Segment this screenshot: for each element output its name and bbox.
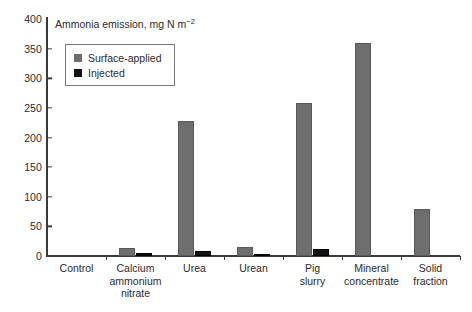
x-axis-category-label-line: Urea [165,262,224,275]
x-axis-category-label-line: Solid [401,262,460,275]
x-axis-category-label-line: Mineral [342,262,401,275]
x-axis-category-label: Mineralconcentrate [342,262,401,287]
x-axis-category-label-line: Pig [283,262,342,275]
x-axis-category-label: Calciumammoniumnitrate [106,262,165,300]
x-axis-category-label: Pigslurry [283,262,342,287]
bar-surface-applied [296,103,312,256]
y-tick-label: 50 [0,220,42,232]
legend-item-label: Injected [88,67,125,79]
legend-item-injected: Injected [74,65,162,80]
x-axis-category-label: Solidfraction [401,262,460,287]
x-axis-category-label-line: ammonium [106,275,165,288]
bar-injected [195,251,211,256]
legend-swatch-icon [74,69,82,77]
y-axis-title-exponent: −2 [186,17,195,26]
legend-swatch-icon [74,54,82,62]
y-tick-label: 400 [0,13,42,25]
legend-item-label: Surface-applied [88,52,162,64]
bar-injected [313,249,329,256]
bar-surface-applied [178,121,194,256]
x-axis-category-label: Urean [224,262,283,275]
x-axis-category-label-line: Control [47,262,106,275]
ammonia-emission-bar-chart: 050100150200250300350400 ControlCalciuma… [0,0,472,312]
y-tick-label: 0 [0,250,42,262]
legend-item-surface-applied: Surface-applied [74,50,162,65]
bar-surface-applied [355,43,371,256]
x-tick-mark [106,256,107,260]
x-axis-category-label-line: nitrate [106,287,165,300]
x-axis-category-label: Control [47,262,106,275]
y-axis-title-text: Ammonia emission, mg N m [55,18,186,30]
bar-group [342,19,401,256]
y-tick-label: 100 [0,191,42,203]
bar-surface-applied [414,209,430,256]
bar-group [283,19,342,256]
bar-group [401,19,460,256]
y-tick-label: 350 [0,43,42,55]
x-axis-category-label-line: concentrate [342,275,401,288]
bar-surface-applied [119,248,135,256]
x-axis-category-label-line: slurry [283,275,342,288]
y-tick-label: 300 [0,72,42,84]
y-axis-title: Ammonia emission, mg N m−2 [55,18,195,30]
x-tick-mark [460,256,461,260]
x-axis-category-label-line: fraction [401,275,460,288]
y-tick-label: 150 [0,161,42,173]
x-tick-mark [283,256,284,260]
x-axis-category-label-line: Urean [224,262,283,275]
x-tick-mark [401,256,402,260]
x-tick-mark [342,256,343,260]
bar-group [224,19,283,256]
y-tick-label: 200 [0,132,42,144]
chart-legend: Surface-appliedInjected [65,44,175,86]
x-tick-mark [224,256,225,260]
x-axis-category-label: Urea [165,262,224,275]
x-axis-category-label-line: Calcium [106,262,165,275]
x-tick-mark [165,256,166,260]
y-tick-label: 250 [0,102,42,114]
bar-injected [136,253,152,256]
bar-injected [254,254,270,256]
bar-surface-applied [237,247,253,256]
